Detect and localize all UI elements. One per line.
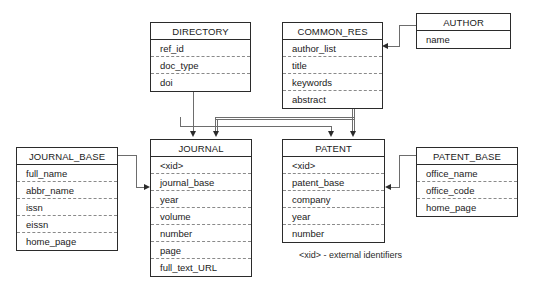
connector-author-to-common-res-h2	[388, 46, 400, 47]
entity-patent-title: PATENT	[283, 140, 384, 157]
entity-directory-title: DIRECTORY	[151, 23, 250, 40]
connector-author-to-common-res-h1	[399, 25, 416, 26]
connector-patent-base-to-patent-h2	[391, 187, 400, 188]
arrowhead-directory-to-journal	[190, 131, 196, 137]
connector-common-res-trunk-2	[354, 107, 355, 131]
entity-common-res-field-abstract: abstract	[283, 91, 382, 108]
entity-patent-base[interactable]: PATENT_BASE office_name office_code home…	[416, 147, 518, 217]
entity-common-res-field-title: title	[283, 57, 382, 74]
entity-patent-base-field-office-name: office_name	[417, 165, 517, 182]
entity-journal[interactable]: JOURNAL <xid> journal_base year volume n…	[150, 139, 252, 277]
entity-patent-base-field-home-page: home_page	[417, 199, 517, 216]
entity-journal-base-title: JOURNAL_BASE	[17, 148, 117, 165]
entity-patent[interactable]: PATENT <xid> patent_base company year nu…	[282, 139, 385, 243]
entity-author-field-name: name	[417, 31, 510, 48]
connector-author-to-common-res-v	[399, 25, 400, 46]
connector-journal-base-to-journal-h1	[118, 155, 136, 156]
entity-common-res-field-author-list: author_list	[283, 40, 382, 57]
entity-author-title: AUTHOR	[417, 14, 510, 31]
entity-journal-field-volume: volume	[151, 208, 251, 225]
entity-journal-base-field-abbr-name: abbr_name	[17, 182, 117, 199]
connector-common-res-to-journal-v	[215, 117, 216, 131]
er-diagram-canvas: DIRECTORY ref_id doc_type doi COMMON_RES…	[0, 0, 537, 281]
entity-journal-field-journal-base: journal_base	[151, 174, 251, 191]
entity-author[interactable]: AUTHOR name	[416, 13, 511, 49]
entity-patent-field-number: number	[283, 225, 384, 242]
connector-directory-to-patent-v1	[180, 117, 181, 126]
entity-journal-base-field-issn: issn	[17, 199, 117, 216]
entity-common-res[interactable]: COMMON_RES author_list title keywords ab…	[282, 22, 383, 109]
entity-directory[interactable]: DIRECTORY ref_id doc_type doi	[150, 22, 251, 92]
entity-journal-title: JOURNAL	[151, 140, 251, 157]
arrowhead-patent-base-to-patent	[385, 184, 391, 190]
connector-common-res-to-journal-h2	[215, 119, 354, 120]
entity-patent-field-company: company	[283, 191, 384, 208]
entity-directory-field-doc-type: doc_type	[151, 57, 250, 74]
entity-common-res-field-keywords: keywords	[283, 74, 382, 91]
arrowhead-common-res-to-journal	[213, 131, 219, 137]
entity-directory-field-ref-id: ref_id	[151, 40, 250, 57]
connector-patent-base-to-patent-v	[399, 155, 400, 187]
entity-journal-field-year: year	[151, 191, 251, 208]
connector-common-res-to-journal-h	[215, 117, 354, 118]
entity-directory-field-doi: doi	[151, 74, 250, 91]
entity-journal-field-number: number	[151, 225, 251, 242]
connector-directory-trunk	[193, 90, 194, 131]
entity-patent-base-field-office-code: office_code	[417, 182, 517, 199]
entity-patent-field-xid: <xid>	[283, 157, 384, 174]
arrowhead-common-res-to-patent	[350, 131, 356, 137]
entity-patent-field-year: year	[283, 208, 384, 225]
entity-journal-field-full-text-url: full_text_URL	[151, 259, 251, 276]
entity-journal-field-xid: <xid>	[151, 157, 251, 174]
connector-patent-base-to-patent-h1	[399, 155, 416, 156]
connector-journal-base-to-journal-h2	[136, 187, 144, 188]
diagram-legend-caption: <xid> - external identifiers	[299, 250, 402, 260]
entity-journal-base-field-full-name: full_name	[17, 165, 117, 182]
arrowhead-directory-to-patent	[328, 131, 334, 137]
entity-journal-base[interactable]: JOURNAL_BASE full_name abbr_name issn ei…	[16, 147, 118, 251]
entity-patent-field-patent-base: patent_base	[283, 174, 384, 191]
entity-common-res-title: COMMON_RES	[283, 23, 382, 40]
connector-common-res-to-journal-v2	[217, 119, 218, 131]
entity-journal-field-page: page	[151, 242, 251, 259]
connector-directory-to-patent-h	[180, 126, 332, 127]
entity-journal-base-field-eissn: eissn	[17, 216, 117, 233]
connector-journal-base-to-journal-v	[136, 155, 137, 187]
entity-patent-base-title: PATENT_BASE	[417, 148, 517, 165]
entity-journal-base-field-home-page: home_page	[17, 233, 117, 250]
